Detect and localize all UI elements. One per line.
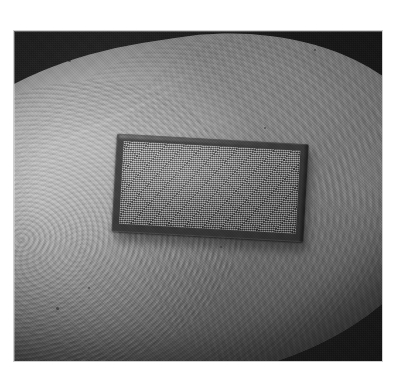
photograph: [14, 31, 382, 361]
microchip: [111, 134, 312, 249]
screenshot-root: [0, 0, 395, 374]
skin-speck: [314, 49, 316, 51]
chip-micro-array: [119, 141, 300, 234]
chip-array-shading: [119, 141, 300, 234]
skin-speck: [56, 307, 59, 310]
skin-speck: [264, 127, 266, 129]
skin-speck: [68, 59, 71, 62]
skin-speck: [88, 287, 90, 289]
chip-body: [112, 134, 309, 243]
